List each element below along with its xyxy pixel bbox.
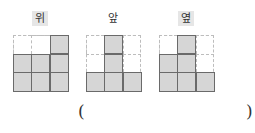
- grid-side: [159, 35, 214, 91]
- empty-cell: [159, 35, 177, 54]
- view-label-top: 위: [32, 11, 48, 26]
- view-label-front: 앞: [105, 11, 121, 26]
- filled-cell: [50, 35, 69, 54]
- answer-blank[interactable]: [90, 101, 240, 121]
- empty-cell: [196, 35, 214, 54]
- grid-top: [13, 35, 68, 91]
- answer-close-paren: ): [246, 101, 253, 121]
- filled-cell: [86, 72, 105, 91]
- filled-cell: [104, 54, 123, 73]
- empty-cell: [123, 54, 141, 73]
- empty-cell: [86, 35, 104, 54]
- view-label-side: 옆: [178, 11, 194, 26]
- filled-cell: [104, 35, 123, 54]
- filled-cell: [196, 72, 215, 91]
- filled-cell: [159, 72, 178, 91]
- filled-cell: [159, 54, 178, 73]
- answer-open-paren: (: [78, 101, 85, 121]
- empty-cell: [196, 54, 214, 73]
- empty-cell: [13, 35, 31, 54]
- empty-cell: [31, 35, 49, 54]
- empty-cell: [123, 35, 141, 54]
- filled-cell: [177, 35, 196, 54]
- filled-cell: [13, 54, 32, 73]
- filled-cell: [123, 72, 142, 91]
- filled-cell: [104, 72, 123, 91]
- filled-cell: [177, 54, 196, 73]
- empty-cell: [86, 54, 104, 73]
- filled-cell: [177, 72, 196, 91]
- filled-cell: [31, 72, 50, 91]
- filled-cell: [31, 54, 50, 73]
- filled-cell: [50, 72, 69, 91]
- filled-cell: [50, 54, 69, 73]
- filled-cell: [13, 72, 32, 91]
- grid-front: [86, 35, 141, 91]
